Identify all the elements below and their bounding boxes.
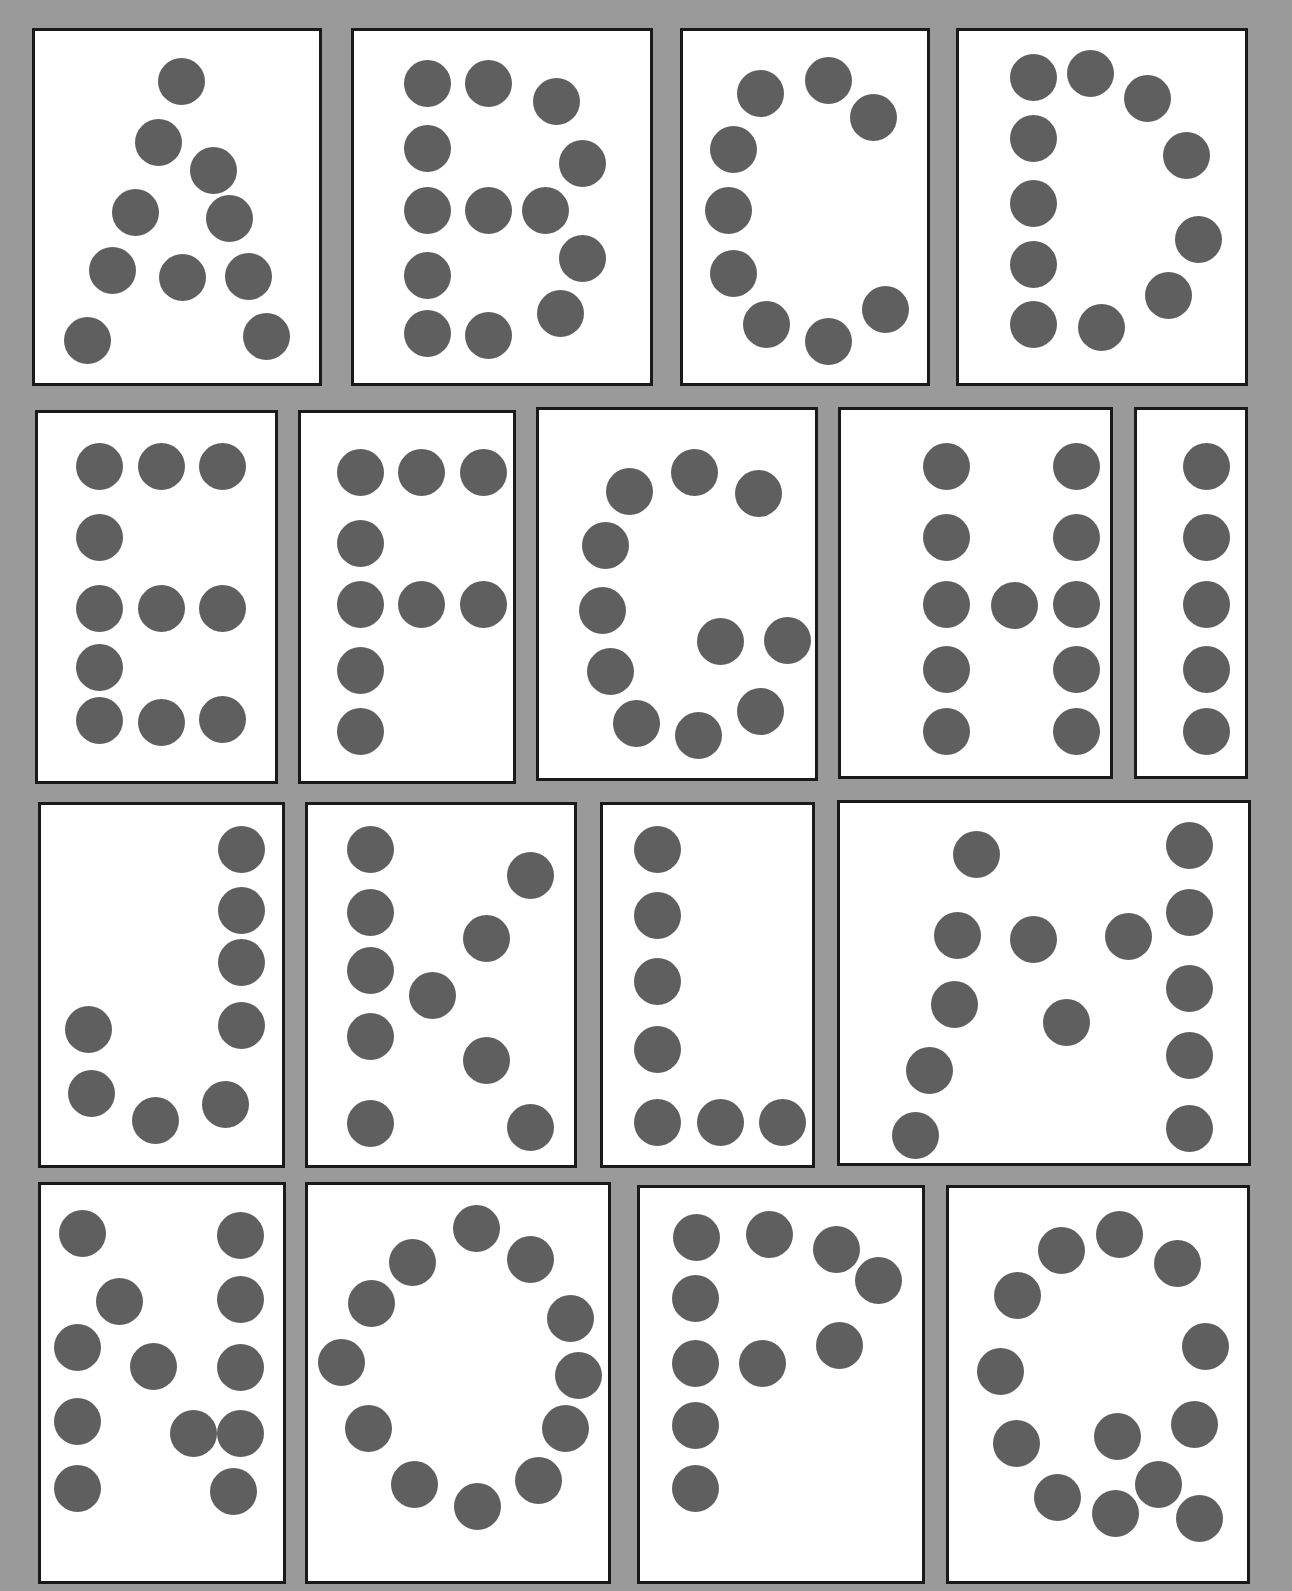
dot-icon: [138, 585, 185, 632]
dot-icon: [1043, 999, 1090, 1046]
dot-icon: [507, 1236, 554, 1283]
dot-icon: [54, 1324, 101, 1371]
dot-icon: [202, 1081, 249, 1128]
dot-icon: [559, 235, 606, 282]
dot-icon: [130, 1343, 177, 1390]
dot-icon: [697, 618, 744, 665]
dot-icon: [587, 648, 634, 695]
dot-icon: [54, 1465, 101, 1512]
dot-icon: [347, 826, 394, 873]
dot-icon: [923, 646, 970, 693]
dot-icon: [217, 1276, 264, 1323]
dot-icon: [1171, 1401, 1218, 1448]
dot-icon: [1053, 514, 1100, 561]
dot-icon: [1034, 1474, 1081, 1521]
dot-icon: [533, 78, 580, 125]
dot-icon: [199, 696, 246, 743]
dot-icon: [345, 1405, 392, 1452]
letter-card-d: D: [956, 28, 1248, 386]
dot-icon: [76, 443, 123, 490]
dot-icon: [764, 617, 811, 664]
dot-icon: [559, 140, 606, 187]
dot-icon: [217, 1344, 264, 1391]
dot-icon: [1183, 443, 1230, 490]
dot-icon: [850, 94, 897, 141]
letter-card-e: E: [35, 410, 278, 784]
letter-card-b: B: [351, 28, 653, 386]
letter-card-f: F: [298, 410, 516, 784]
dot-icon: [537, 290, 584, 337]
dot-icon: [64, 317, 111, 364]
dot-icon: [1176, 1495, 1223, 1542]
dot-icon: [634, 1026, 681, 1073]
letter-card-i: I: [1134, 407, 1248, 779]
dot-icon: [710, 126, 757, 173]
dot-icon: [675, 712, 722, 759]
dot-icon: [1163, 132, 1210, 179]
dot-icon: [671, 449, 718, 496]
dot-icon: [1166, 1105, 1213, 1152]
dot-icon: [673, 1214, 720, 1261]
dot-icon: [991, 582, 1038, 629]
dot-icon: [453, 1205, 500, 1252]
dot-icon: [1010, 180, 1057, 227]
dot-icon: [507, 1104, 554, 1151]
dot-icon: [805, 318, 852, 365]
dot-icon: [1183, 708, 1230, 755]
dot-icon: [672, 1275, 719, 1322]
dot-icon: [199, 585, 246, 632]
dot-icon: [743, 301, 790, 348]
dot-icon: [463, 915, 510, 962]
dot-icon: [634, 826, 681, 873]
letter-card-h: H: [838, 407, 1113, 779]
dot-icon: [218, 826, 265, 873]
dot-icon: [1010, 241, 1057, 288]
dot-icon: [1135, 1461, 1182, 1508]
dot-icon: [218, 939, 265, 986]
dot-icon: [463, 1037, 510, 1084]
letter-card-a: A: [32, 28, 322, 386]
dot-icon: [1183, 646, 1230, 693]
dot-icon: [515, 1457, 562, 1504]
dot-icon: [404, 252, 451, 299]
dot-icon: [54, 1398, 101, 1445]
dot-icon: [404, 310, 451, 357]
dot-icon: [582, 522, 629, 569]
dot-icon: [65, 1006, 112, 1053]
dot-icon: [1183, 514, 1230, 561]
dot-icon: [158, 58, 205, 105]
dot-icon: [348, 1280, 395, 1327]
dot-icon: [1078, 304, 1125, 351]
dot-icon: [1092, 1490, 1139, 1537]
dot-icon: [337, 449, 384, 496]
letter-card-n: N: [38, 1182, 286, 1584]
dot-icon: [710, 250, 757, 297]
letter-card-m: M: [837, 800, 1251, 1166]
dot-icon: [1038, 1227, 1085, 1274]
dot-icon: [217, 1410, 264, 1457]
dot-icon: [404, 187, 451, 234]
dot-icon: [337, 647, 384, 694]
dot-icon: [931, 981, 978, 1028]
dot-icon: [697, 1099, 744, 1146]
dot-icon: [813, 1226, 860, 1273]
dot-icon: [347, 889, 394, 936]
dot-icon: [76, 514, 123, 561]
dot-icon: [59, 1210, 106, 1257]
dot-icon: [465, 60, 512, 107]
dot-icon: [159, 254, 206, 301]
dot-icon: [218, 1002, 265, 1049]
dot-icon: [923, 514, 970, 561]
dot-icon: [705, 187, 752, 234]
dot-icon: [460, 581, 507, 628]
dot-icon: [634, 1099, 681, 1146]
dot-icon: [737, 70, 784, 117]
dot-icon: [542, 1405, 589, 1452]
dot-icon: [1067, 50, 1114, 97]
dot-icon: [1175, 216, 1222, 263]
dot-icon: [389, 1239, 436, 1286]
letter-card-j: J: [38, 802, 285, 1168]
dot-icon: [672, 1402, 719, 1449]
dot-icon: [555, 1352, 602, 1399]
dot-icon: [805, 57, 852, 104]
